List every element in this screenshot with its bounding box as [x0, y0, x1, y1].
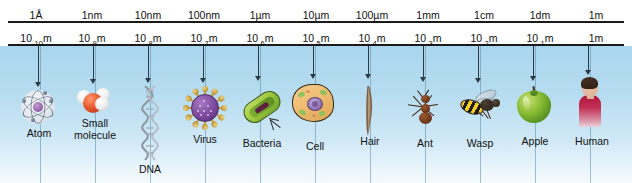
virus-surface-dot [203, 110, 205, 112]
ruler-unit-9: 1dm [512, 0, 568, 21]
column-divider [95, 46, 96, 183]
exp-mantissa: 10 [190, 32, 202, 44]
ruler-unit-row: 1Å 1nm 10nm 100nm 1µm 10µm 100µm 1mm 1cm… [0, 0, 632, 22]
ruler-exponent-2: 10-8m [120, 23, 176, 44]
object-label-dna: DNA [123, 164, 177, 176]
object-label-apple: Apple [508, 136, 562, 148]
cell-organelle [297, 91, 305, 98]
wasp-icon [458, 88, 504, 126]
exp-mantissa: 10 [358, 32, 370, 44]
bacteria-icon [240, 86, 284, 130]
ruler-unit-0: 1Å [8, 0, 64, 21]
virus-surface-dot [200, 114, 202, 116]
atom-nucleus [33, 102, 43, 112]
ant-thorax [421, 104, 430, 113]
atom-icon [21, 90, 55, 124]
apple-stem-notch [530, 90, 538, 96]
exp-mantissa: 10 [20, 32, 32, 44]
pointer-arrowhead-molecule [90, 79, 96, 84]
cell-organelle [306, 90, 310, 93]
virus-icon [185, 88, 225, 128]
exp-unit: m [489, 32, 498, 44]
ruler-exponent-7: 10-3m [400, 23, 456, 44]
cell-organelle [318, 110, 325, 116]
exp-mantissa: 10 [78, 32, 90, 44]
pointer-arrowhead-apple [530, 76, 536, 81]
exp-mantissa: 10 [302, 32, 314, 44]
ruler-unit-6: 100µm [344, 0, 400, 21]
pointer-arrow-molecule [93, 46, 94, 79]
exp-unit: m [595, 32, 604, 44]
object-label-wasp: Wasp [453, 138, 507, 150]
pointer-arrow-human [588, 46, 589, 70]
pointer-arrowhead-atom [35, 82, 41, 87]
human-hair [581, 77, 598, 89]
ruler-exponent-3: 10-7m [176, 23, 232, 44]
virus-surface-dot [197, 110, 199, 112]
dna-helix-svg [141, 86, 159, 160]
ruler-exponent-4: 10-6m [232, 23, 288, 44]
ruler-exponent-0: 10-10m [8, 23, 64, 44]
human-figure-icon [575, 78, 605, 128]
cell-organelle [319, 89, 327, 96]
exp-mantissa: 10 [414, 32, 426, 44]
scale-comparison-figure: 1Å 1nm 10nm 100nm 1µm 10µm 100µm 1mm 1cm… [0, 0, 632, 183]
object-label-ant: Ant [398, 138, 452, 150]
object-label-atom: Atom [12, 128, 66, 140]
exp-mantissa: 10 [134, 32, 146, 44]
ruler-unit-3: 100nm [176, 0, 232, 21]
ruler-unit-8: 1cm [456, 0, 512, 21]
scale-panel: Atom Small molecule DNA [0, 46, 632, 183]
ruler-unit-7: 1mm [400, 0, 456, 21]
cell-nucleolus [312, 101, 318, 107]
human-torso [579, 95, 601, 127]
pointer-arrowhead-ant [420, 77, 426, 82]
pointer-arrow-hair [368, 46, 369, 74]
virus-surface-dot [210, 110, 212, 112]
object-label-molecule: Small molecule [68, 118, 122, 141]
exp-unit: m [265, 32, 274, 44]
pointer-arrow-dna [148, 46, 149, 78]
molecule-icon [77, 88, 111, 114]
object-label-hair: Hair [343, 136, 397, 148]
ruler-exponent-10: 1m [568, 23, 624, 44]
cell-organelle [298, 108, 307, 116]
ruler-unit-2: 10nm [120, 0, 176, 21]
exp-unit: m [209, 32, 218, 44]
hair-strand-svg [360, 86, 380, 136]
ruler-unit-5: 10µm [288, 0, 344, 21]
dna-helix-icon [141, 86, 159, 160]
pointer-arrow-apple [533, 46, 534, 76]
object-label-bacteria: Bacteria [233, 138, 291, 150]
exp-unit: m [545, 32, 554, 44]
pointer-arrow-bacteria [258, 46, 259, 76]
virus-surface-dot [199, 105, 201, 107]
exp-unit: m [321, 32, 330, 44]
exp-unit: m [43, 32, 52, 44]
virus-surface-dot [203, 100, 205, 102]
cell-membrane [292, 84, 334, 122]
pointer-arrowhead-wasp [475, 78, 481, 83]
virus-surface-dot [207, 114, 209, 116]
apple-icon [517, 86, 553, 126]
pointer-arrow-atom [38, 46, 39, 82]
pointer-arrow-virus [203, 46, 204, 78]
exp-mantissa: 10 [246, 32, 258, 44]
exp-mantissa: 10 [470, 32, 482, 44]
pointer-arrowhead-bacteria [255, 76, 261, 81]
ruler-unit-4: 1µm [232, 0, 288, 21]
ruler-exponent-1: 10-9m [64, 23, 120, 44]
ruler-unit-1: 1nm [64, 0, 120, 21]
pointer-arrow-wasp [478, 46, 479, 78]
molecule-hydrogen-atom [95, 97, 109, 111]
ruler-exponent-8: 10-2m [456, 23, 512, 44]
pointer-arrowhead-human [585, 70, 591, 75]
pointer-arrowhead-virus [200, 78, 206, 83]
exp-unit: m [153, 32, 162, 44]
pointer-arrowhead-cell [310, 74, 316, 79]
ant-icon [405, 88, 445, 128]
pointer-arrow-cell [313, 46, 314, 74]
object-label-cell: Cell [288, 141, 342, 153]
ruler-exponent-9: 10-1m [512, 23, 568, 44]
cell-organelle [312, 114, 316, 117]
